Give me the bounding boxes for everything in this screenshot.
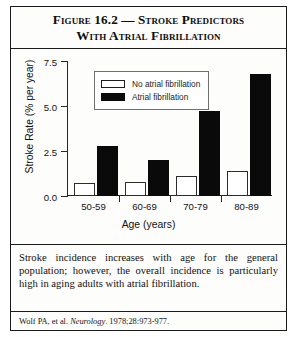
bar: [125, 182, 146, 196]
figure-caption: Stroke incidence increases with age for …: [11, 245, 286, 312]
figure-caption-text: Stroke incidence increases with age for …: [19, 251, 278, 291]
y-tick: 2.5: [61, 151, 68, 152]
x-tick-label: 80-89: [221, 201, 272, 212]
bar-group: [221, 61, 272, 196]
legend-swatch-solid-icon: [101, 93, 125, 102]
figure-card: Figure 16.2 — Stroke Predictors With Atr…: [10, 6, 287, 331]
legend-label-series-2: Atrial fibrillation: [132, 92, 188, 102]
bar: [199, 111, 220, 196]
bar: [74, 183, 95, 196]
figure-title-line-2: With Atrial Fibrillation: [17, 28, 280, 44]
figure-citation-text: Wolf PA, et al. Neurology. 1978;28:973-9…: [19, 317, 278, 326]
y-tick-label: 2.5: [44, 146, 57, 157]
figure-citation: Wolf PA, et al. Neurology. 1978;28:973-9…: [11, 312, 286, 330]
chart-legend: No atrial fibrillation Atrial fibrillati…: [94, 71, 209, 110]
x-tick-label: 70-79: [170, 201, 221, 212]
x-tick-label: 50-59: [68, 201, 119, 212]
y-tick-label: 0.0: [44, 191, 57, 202]
bar: [227, 171, 248, 196]
y-tick-label: 7.5: [44, 56, 57, 67]
x-tick-label: 60-69: [119, 201, 170, 212]
legend-swatch-open-icon: [101, 80, 125, 89]
legend-label-series-1: No atrial fibrillation: [132, 79, 200, 89]
y-tick-label: 5.0: [44, 101, 57, 112]
bar: [176, 176, 197, 196]
legend-item-atrial-fibrillation: Atrial fibrillation: [101, 91, 200, 103]
citation-authors: Wolf PA, et al.: [19, 317, 70, 326]
bar: [97, 146, 118, 196]
y-axis-label: Stroke Rate (% per year): [24, 47, 35, 187]
citation-details: . 1978;28:973-977.: [105, 317, 169, 326]
legend-item-no-atrial-fibrillation: No atrial fibrillation: [101, 78, 200, 90]
y-tick: 5.0: [61, 106, 68, 107]
y-tick: 0.0: [61, 196, 68, 197]
bar: [250, 74, 271, 196]
bar: [148, 160, 169, 196]
figure-title: Figure 16.2 — Stroke Predictors With Atr…: [11, 7, 286, 49]
figure-title-line-1: Figure 16.2 — Stroke Predictors: [17, 12, 280, 28]
chart-plot: Stroke Rate (% per year) 0.02.55.07.5 50…: [11, 49, 286, 244]
y-tick: 7.5: [61, 61, 68, 62]
citation-journal: Neurology: [70, 317, 105, 326]
x-axis-label: Age (years): [11, 219, 286, 230]
chart-area: Stroke Rate (% per year) 0.02.55.07.5 50…: [11, 49, 286, 245]
